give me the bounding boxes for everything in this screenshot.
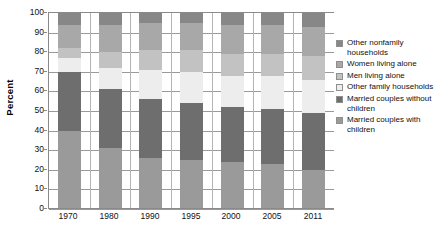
bar-segment[interactable]: [139, 13, 162, 23]
y-axis-tick-label: 10: [4, 184, 44, 193]
legend-item[interactable]: Married couples without children: [336, 94, 438, 113]
bar-segment[interactable]: [261, 109, 284, 164]
x-axis-tick-label: 1990: [130, 211, 170, 221]
y-axis-tick-labels: 1009080706050403020100: [0, 12, 44, 208]
bar-segment[interactable]: [302, 56, 325, 80]
bar-1995[interactable]: [180, 13, 203, 209]
y-axis-tick-label: 100: [4, 8, 44, 17]
bar-segment[interactable]: [180, 13, 203, 23]
bar-segment[interactable]: [302, 170, 325, 209]
bar-segment[interactable]: [58, 131, 81, 209]
bar-segment[interactable]: [139, 158, 162, 209]
legend-item-label: Married couples with children: [347, 115, 435, 134]
bar-segment[interactable]: [99, 13, 122, 25]
legend-item[interactable]: Other nonfamily households: [336, 38, 438, 57]
legend-item[interactable]: Other family households: [336, 82, 438, 92]
legend-item[interactable]: Women living alone: [336, 59, 438, 69]
chart-legend: Other nonfamily householdsWomen living a…: [336, 38, 438, 136]
y-axis-tick-mark: [44, 169, 47, 170]
x-axis-tick-label: 1970: [48, 211, 88, 221]
y-axis-tick-label: 30: [4, 145, 44, 154]
y-axis-tick-mark: [44, 32, 47, 33]
y-axis-tick-mark: [44, 208, 47, 209]
bar-segment[interactable]: [180, 23, 203, 50]
bar-segment[interactable]: [139, 50, 162, 70]
bar-segment[interactable]: [99, 25, 122, 52]
y-axis-tick-mark: [44, 149, 47, 150]
y-axis-tick-label: 40: [4, 126, 44, 135]
bar-segment[interactable]: [261, 25, 284, 54]
bar-segment[interactable]: [58, 48, 81, 58]
x-axis-tick-label: 1980: [89, 211, 129, 221]
x-axis-tick-label: 1995: [171, 211, 211, 221]
legend-item-label: Married couples without children: [347, 94, 435, 113]
bar-segment[interactable]: [99, 68, 122, 90]
bar-segment[interactable]: [58, 13, 81, 25]
bar-segment[interactable]: [99, 89, 122, 148]
legend-swatch-icon: [336, 40, 343, 47]
legend-item-label: Other nonfamily households: [347, 38, 435, 57]
y-axis-tick-label: 90: [4, 28, 44, 37]
legend-item[interactable]: Married couples with children: [336, 115, 438, 134]
bar-segment[interactable]: [261, 13, 284, 25]
bar-1990[interactable]: [139, 13, 162, 209]
bar-segment[interactable]: [261, 54, 284, 76]
y-axis-tick-mark: [44, 71, 47, 72]
bar-segment[interactable]: [221, 107, 244, 162]
bar-segment[interactable]: [180, 103, 203, 160]
bar-segment[interactable]: [180, 72, 203, 103]
plot-area: [48, 12, 334, 209]
legend-item[interactable]: Men living alone: [336, 71, 438, 81]
bar-segment[interactable]: [221, 76, 244, 107]
bar-segment[interactable]: [221, 54, 244, 76]
bar-segment[interactable]: [139, 99, 162, 158]
bar-segment[interactable]: [139, 70, 162, 99]
y-axis-tick-label: 70: [4, 67, 44, 76]
bar-segment[interactable]: [58, 58, 81, 72]
bar-segment[interactable]: [99, 148, 122, 209]
bar-group: [49, 13, 334, 209]
bar-2005[interactable]: [261, 13, 284, 209]
bar-segment[interactable]: [58, 72, 81, 131]
bar-segment[interactable]: [302, 113, 325, 170]
stacked-bar-chart: Percent 1009080706050403020100 197019801…: [0, 0, 438, 240]
x-axis-line: [48, 208, 334, 209]
bar-segment[interactable]: [221, 25, 244, 54]
bar-segment[interactable]: [180, 160, 203, 209]
bar-segment[interactable]: [302, 27, 325, 56]
bar-1970[interactable]: [58, 13, 81, 209]
x-axis-tick-label: 2000: [211, 211, 251, 221]
y-axis-tick-label: 50: [4, 106, 44, 115]
y-axis-tick-mark: [44, 188, 47, 189]
y-axis-tick-mark: [44, 110, 47, 111]
y-axis-tick-mark: [44, 51, 47, 52]
bar-segment[interactable]: [302, 80, 325, 113]
bar-segment[interactable]: [302, 13, 325, 27]
bar-segment[interactable]: [261, 76, 284, 109]
y-axis-tick-mark: [44, 12, 47, 13]
legend-item-label: Men living alone: [347, 71, 405, 81]
bar-segment[interactable]: [221, 162, 244, 209]
y-axis-tick-mark: [44, 90, 47, 91]
bar-2000[interactable]: [221, 13, 244, 209]
y-axis-tick-label: 20: [4, 165, 44, 174]
bar-2011[interactable]: [302, 13, 325, 209]
legend-item-label: Women living alone: [347, 59, 417, 69]
legend-swatch-icon: [336, 84, 343, 91]
bar-segment[interactable]: [139, 23, 162, 50]
bar-segment[interactable]: [261, 164, 284, 209]
legend-swatch-icon: [336, 61, 343, 68]
legend-swatch-icon: [336, 96, 343, 103]
x-axis-tick-labels: 1970198019901995200020052011: [48, 211, 333, 227]
bar-segment[interactable]: [58, 25, 81, 49]
gridline: [49, 209, 334, 210]
bar-segment[interactable]: [99, 52, 122, 68]
legend-item-label: Other family households: [347, 82, 433, 92]
y-axis-tick-label: 60: [4, 86, 44, 95]
bar-segment[interactable]: [221, 13, 244, 25]
y-axis-tick-label: 80: [4, 47, 44, 56]
legend-swatch-icon: [336, 117, 343, 124]
bar-1980[interactable]: [99, 13, 122, 209]
legend-swatch-icon: [336, 73, 343, 80]
bar-segment[interactable]: [180, 50, 203, 72]
